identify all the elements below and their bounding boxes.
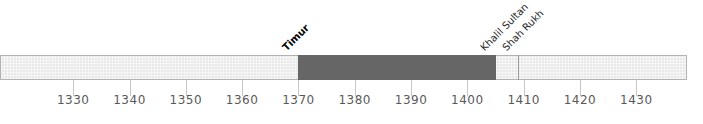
event-label-timur: Timur xyxy=(281,22,312,53)
timeline-event-labels: TimurKhalil SultanShah Rukh xyxy=(0,0,703,124)
timeline-chart: 1330134013501360137013801390140014101420… xyxy=(0,0,703,124)
